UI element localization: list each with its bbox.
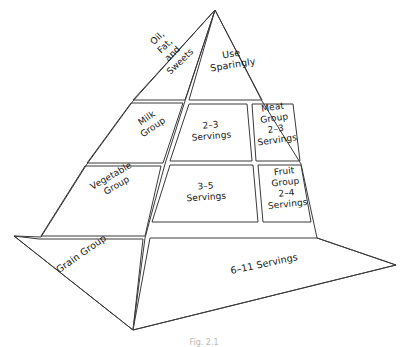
tier4-left-face (14, 236, 143, 330)
tier2-front-center (170, 104, 252, 161)
tier2-front-right (252, 104, 300, 161)
tier3-front-center (152, 165, 258, 222)
figure-caption: Fig. 2.1 (0, 338, 408, 347)
tier3-left-face (41, 166, 161, 236)
